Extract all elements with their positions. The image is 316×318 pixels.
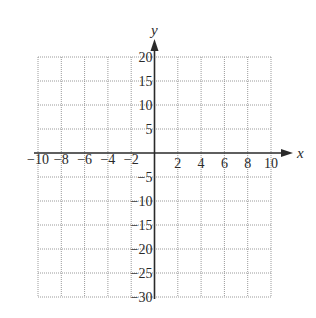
axes	[34, 39, 293, 299]
y-axis-label: y	[149, 22, 158, 38]
coordinate-plane: −10−8−6−4−2246810 2015105−5−10−15−20−25−…	[0, 0, 316, 318]
y-tick-label: −5	[138, 170, 153, 185]
y-tick-label: −25	[131, 266, 153, 281]
x-tick-label: 2	[174, 156, 181, 171]
y-tick-label: −10	[131, 194, 153, 209]
x-tick-label: 6	[221, 156, 228, 171]
y-tick-label: 15	[139, 74, 153, 89]
x-tick-label: 8	[244, 156, 251, 171]
x-axis-arrow-icon	[281, 149, 293, 157]
x-axis-label: x	[296, 145, 304, 161]
x-tick-label: −10	[27, 152, 49, 167]
x-tick-labels: −10−8−6−4−2246810	[27, 152, 278, 171]
y-tick-labels: 2015105−5−10−15−20−25−30	[131, 50, 153, 305]
y-tick-label: 5	[146, 122, 153, 137]
y-tick-label: −15	[131, 218, 153, 233]
x-tick-label: −8	[54, 152, 69, 167]
y-tick-label: 10	[139, 98, 153, 113]
y-tick-label: −30	[131, 290, 153, 305]
y-tick-label: −20	[131, 242, 153, 257]
x-tick-label: −6	[77, 152, 92, 167]
x-tick-label: −4	[100, 152, 115, 167]
y-tick-label: 20	[139, 50, 153, 65]
x-tick-label: 10	[264, 156, 278, 171]
x-tick-label: 4	[198, 156, 205, 171]
x-tick-label: −2	[124, 152, 139, 167]
